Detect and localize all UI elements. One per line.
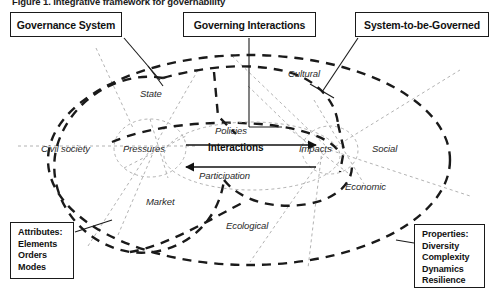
governance-system-circle bbox=[54, 77, 224, 253]
node-label-impacts: Impacts bbox=[299, 143, 332, 154]
center-label-interactions: Interactions bbox=[208, 142, 263, 153]
flow-label-policies: Policies bbox=[215, 125, 247, 136]
node-label-pressures: Pressures bbox=[123, 143, 165, 154]
properties-title: Properties: bbox=[422, 229, 484, 241]
properties-box[interactable]: Properties: Diversity Complexity Dynamic… bbox=[414, 224, 485, 288]
attributes-title: Attributes: bbox=[18, 227, 73, 239]
properties-item-0: Diversity bbox=[422, 241, 484, 253]
properties-item-2: Dynamics bbox=[422, 264, 484, 276]
faint-sector-lines bbox=[18, 48, 470, 268]
zone-label-social: Social bbox=[372, 143, 397, 154]
attributes-box[interactable]: Attributes: Elements Orders Modes bbox=[10, 222, 74, 279]
flow-label-participation: Participation bbox=[199, 170, 250, 181]
properties-item-3: Resilience bbox=[422, 275, 484, 287]
properties-item-1: Complexity bbox=[422, 252, 484, 264]
zone-label-ecological: Ecological bbox=[226, 220, 268, 231]
zone-label-market: Market bbox=[146, 196, 174, 207]
header-box-governance-system[interactable]: Governance System bbox=[10, 12, 122, 37]
header-label-system-to-be-governed: System-to-be-Governed bbox=[364, 19, 480, 31]
zone-label-civil-society: Civil society bbox=[41, 143, 90, 154]
header-label-governing-interactions: Governing Interactions bbox=[194, 19, 306, 31]
interaction-ellipse bbox=[164, 122, 340, 190]
attributes-item-0: Elements bbox=[18, 239, 73, 251]
attributes-item-1: Orders bbox=[18, 250, 73, 262]
zone-label-economic: Economic bbox=[345, 181, 386, 192]
header-label-governance-system: Governance System bbox=[17, 19, 115, 31]
zone-label-cultural: Cultural bbox=[288, 68, 320, 79]
header-box-governing-interactions[interactable]: Governing Interactions bbox=[183, 12, 316, 37]
attributes-item-2: Modes bbox=[18, 262, 73, 274]
header-leader-lines bbox=[124, 38, 358, 127]
zone-label-state: State bbox=[140, 88, 162, 99]
header-box-system-to-be-governed[interactable]: System-to-be-Governed bbox=[355, 12, 489, 37]
figure-canvas: Figure 1. Integrative framework for gove… bbox=[0, 0, 495, 292]
